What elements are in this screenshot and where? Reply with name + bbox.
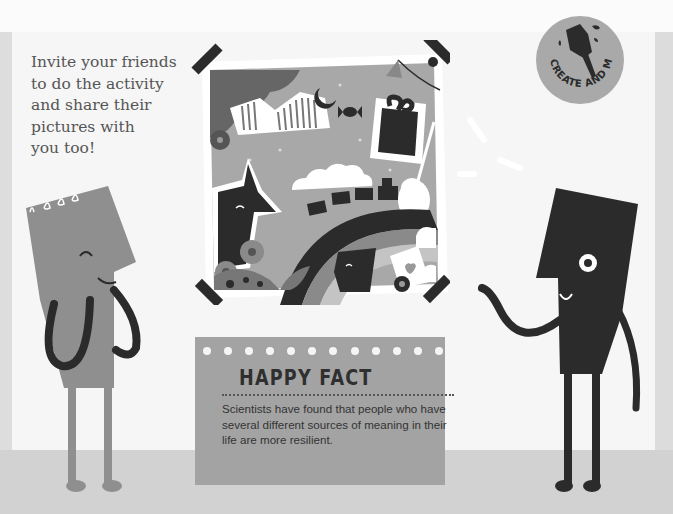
left-character <box>0 160 200 500</box>
intro-line: and share their <box>31 96 152 114</box>
intro-line: Invite your friends <box>31 53 177 71</box>
intro-line: you too! <box>31 139 95 157</box>
paintbrush-icon: CREATE AND MAKE <box>536 16 624 104</box>
happy-fact-title: HAPPY FACT <box>239 365 439 390</box>
intro-line: to do the activity <box>31 75 164 93</box>
dotted-divider <box>222 394 454 396</box>
create-and-make-badge: CREATE AND MAKE <box>536 16 624 104</box>
happy-fact-card: HAPPY FACT Scientists have found that pe… <box>195 337 445 485</box>
intro-text: Invite your friends to do the activity a… <box>31 52 201 160</box>
happy-fact-body: Scientists have found that people who ha… <box>222 401 452 448</box>
binder-holes <box>203 347 443 357</box>
intro-line: pictures with <box>31 118 135 136</box>
activity-page: Invite your friends to do the activity a… <box>0 0 673 514</box>
right-character <box>460 160 673 514</box>
collage-photo <box>190 40 450 305</box>
